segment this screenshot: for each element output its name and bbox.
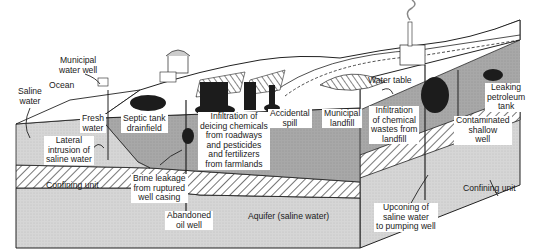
label-water-table: Water table bbox=[368, 76, 412, 86]
label-deicing-infiltration: Infiltration of deicing chemicals from r… bbox=[198, 112, 270, 170]
label-aquifer-saline: Aquifer (saline water) bbox=[248, 212, 329, 222]
label-saline-water: Saline water bbox=[18, 87, 42, 106]
label-lateral-intrusion: Lateral intrusion of saline water bbox=[44, 136, 94, 165]
factory bbox=[400, 0, 425, 65]
label-contaminated-shallow-well: Contaminated shallow well bbox=[454, 116, 512, 145]
label-leaking-petroleum-tank: Leaking petroleum tank bbox=[485, 83, 527, 112]
label-confining-unit-left: Confining unit bbox=[46, 181, 99, 191]
label-brine-leakage: Brine leakage from ruptured well casing bbox=[131, 174, 188, 203]
label-accidental-spill: Accidental spill bbox=[268, 109, 312, 128]
label-septic-tank-drainfield: Septic tank drainfield bbox=[121, 114, 168, 133]
label-abandoned-oil-well: Abandoned oil well bbox=[165, 211, 213, 230]
label-ocean: Ocean bbox=[49, 81, 74, 91]
label-municipal-landfill: Municipal landfill bbox=[322, 109, 362, 128]
groundwater-contamination-diagram: Municipal water well Ocean Saline water … bbox=[0, 0, 540, 249]
label-chemical-wastes: Infiltration of chemical wastes from lan… bbox=[369, 106, 419, 144]
label-fresh-water: Fresh water bbox=[80, 114, 106, 133]
label-municipal-water-well: Municipal water well bbox=[59, 56, 97, 75]
label-upconing: Upconing of saline water to pumping well bbox=[374, 203, 438, 232]
label-confining-unit-right: Confining unit bbox=[463, 184, 516, 194]
